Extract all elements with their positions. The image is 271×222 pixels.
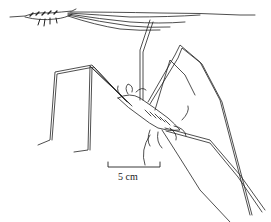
scale-bar-label: 5 cm	[118, 171, 138, 182]
scale-bar	[108, 162, 160, 167]
small-specimen	[10, 9, 255, 30]
large-specimen	[38, 20, 265, 222]
specimen-illustration	[0, 0, 271, 222]
